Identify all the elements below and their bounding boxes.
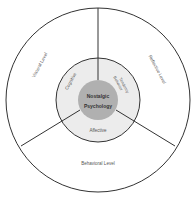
center-label-line1: Nostalgic: [87, 93, 110, 99]
center-label-line2: Psychology: [84, 103, 112, 109]
diagram-canvas: Nostalgic Psychology Cognitive Behavior …: [0, 0, 195, 201]
label-behavioral-level: Behavioral Level: [81, 161, 114, 166]
nostalgic-psychology-diagram: Nostalgic Psychology Cognitive Behavior …: [0, 0, 195, 201]
label-affective: Affective: [89, 128, 107, 133]
center-circle: [78, 80, 118, 120]
